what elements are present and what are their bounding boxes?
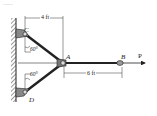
label-B: B <box>121 54 125 61</box>
member-AD <box>25 63 63 92</box>
truss-diagram <box>0 0 157 116</box>
angle-label-lower: 60° <box>30 72 38 78</box>
dimension-label-4ft: 4 ft <box>40 14 50 20</box>
label-P: P <box>138 53 142 60</box>
label-C: C <box>24 27 29 34</box>
angle-label-upper: 60° <box>30 47 38 53</box>
wall <box>11 18 16 102</box>
joint-A <box>57 59 66 67</box>
dimension-label-6ft: 6 ft <box>86 70 96 76</box>
collar-B <box>117 61 123 66</box>
label-D: D <box>29 97 34 104</box>
support-D <box>16 88 29 97</box>
label-A: A <box>66 54 70 61</box>
